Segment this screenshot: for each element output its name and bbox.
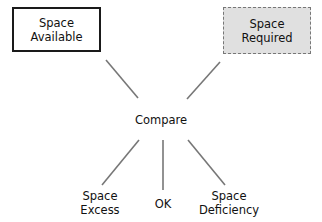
space-deficiency-line2: Deficiency — [198, 203, 260, 217]
line-compare-to-excess — [102, 140, 139, 185]
space-required-line1: Space — [241, 17, 292, 31]
space-available-line2: Available — [30, 30, 82, 44]
space-required-box: Space Required — [223, 7, 311, 54]
ok-label: OK — [148, 197, 178, 211]
ok-line1: OK — [148, 197, 178, 211]
space-deficiency-line1: Space — [198, 189, 260, 203]
space-excess-line1: Space — [75, 189, 125, 203]
compare-label: Compare — [131, 113, 191, 127]
line-available-to-compare — [106, 60, 138, 98]
space-deficiency-label: Space Deficiency — [198, 189, 260, 217]
space-available-line1: Space — [30, 16, 82, 30]
line-required-to-compare — [187, 62, 220, 99]
line-compare-to-deficiency — [188, 140, 225, 185]
space-excess-line2: Excess — [75, 203, 125, 217]
space-required-line2: Required — [241, 31, 292, 45]
space-available-box: Space Available — [12, 7, 101, 52]
space-excess-label: Space Excess — [75, 189, 125, 217]
